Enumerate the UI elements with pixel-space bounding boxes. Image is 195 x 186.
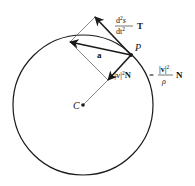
equals-sign: = xyxy=(149,70,154,80)
normal-left: κ|v| xyxy=(110,70,122,80)
point-P xyxy=(129,53,133,57)
svg-text:κ|v|2N: κ|v|2N xyxy=(110,70,132,80)
label-C: C xyxy=(73,100,80,111)
acceleration-diagram: P C a d2s dt2 T κ|v|2N = |v|2 ρ N xyxy=(0,0,195,186)
label-P: P xyxy=(134,42,141,53)
normal-frac-num-sup: 2 xyxy=(167,64,170,70)
label-a: a xyxy=(97,50,102,60)
tangential-unit: T xyxy=(137,21,143,31)
tangential-den-sup: 2 xyxy=(122,26,125,32)
normal-frac-den: ρ xyxy=(161,77,166,86)
svg-text:d2s: d2s xyxy=(116,15,126,25)
svg-text:dt2: dt2 xyxy=(116,26,125,36)
normal-right-unit: N xyxy=(176,70,183,80)
tangential-label: d2s dt2 T xyxy=(115,15,143,36)
point-C xyxy=(81,103,85,107)
normal-left-unit: N xyxy=(125,70,132,80)
tangential-num-var: s xyxy=(123,16,126,25)
svg-text:|v|2: |v|2 xyxy=(159,64,170,74)
radius-line xyxy=(83,80,108,105)
